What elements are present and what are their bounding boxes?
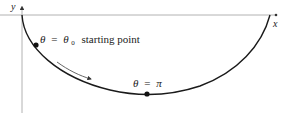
cycloid-diagram: y x θ = θ 0 starting point θ = π (0, 0, 284, 119)
y-axis-label: y (10, 1, 16, 12)
starting-point-dot (33, 42, 38, 47)
bottom-point-dot (144, 91, 149, 96)
x-axis-arrow-icon (275, 14, 278, 17)
starting-point-label: θ = θ 0 starting point (40, 33, 140, 47)
x-axis-label: x (272, 18, 278, 29)
bottom-point-label: θ = π (133, 77, 162, 89)
